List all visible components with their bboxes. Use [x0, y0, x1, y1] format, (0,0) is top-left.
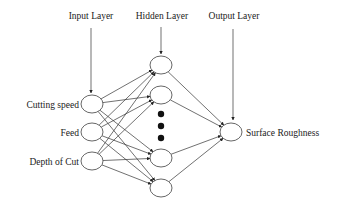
input-node-2: [81, 152, 103, 170]
ellipsis-dot: [158, 111, 164, 117]
input-node-0: [81, 95, 103, 113]
hidden-node-3: [150, 179, 172, 197]
hidden-node-2: [150, 149, 172, 167]
input-label-feed: Feed: [61, 128, 80, 138]
edge-hidden-2-output: [171, 136, 221, 155]
edge-input-1-hidden-0: [99, 72, 154, 125]
neural-network-diagram: Input Layer Hidden Layer Output Layer Cu…: [0, 0, 347, 206]
hidden-node-0: [150, 56, 172, 74]
ellipsis-dot: [158, 135, 164, 141]
input-node-1: [81, 123, 103, 141]
nodes: [81, 56, 242, 197]
edge-input-0-hidden-1: [103, 96, 150, 102]
input-label-depth-of-cut: Depth of Cut: [29, 157, 79, 167]
edge-hidden-1-output: [170, 100, 222, 127]
edge-input-0-hidden-0: [101, 70, 152, 99]
hidden-node-1: [150, 86, 172, 104]
edge-input-1-hidden-2: [102, 136, 151, 154]
hidden-layer-title: Hidden Layer: [136, 11, 189, 21]
edge-input-2-hidden-3: [102, 165, 151, 184]
input-layer-title: Input Layer: [69, 11, 114, 21]
edge-input-0-hidden-3: [98, 111, 155, 180]
output-label-surface-roughness: Surface Roughness: [246, 128, 319, 138]
edge-hidden-0-output: [168, 72, 224, 125]
input-label-cutting-speed: Cutting speed: [26, 100, 79, 110]
output-layer-title: Output Layer: [209, 11, 261, 21]
ellipsis-dot: [158, 123, 164, 129]
output-node: [220, 123, 242, 141]
